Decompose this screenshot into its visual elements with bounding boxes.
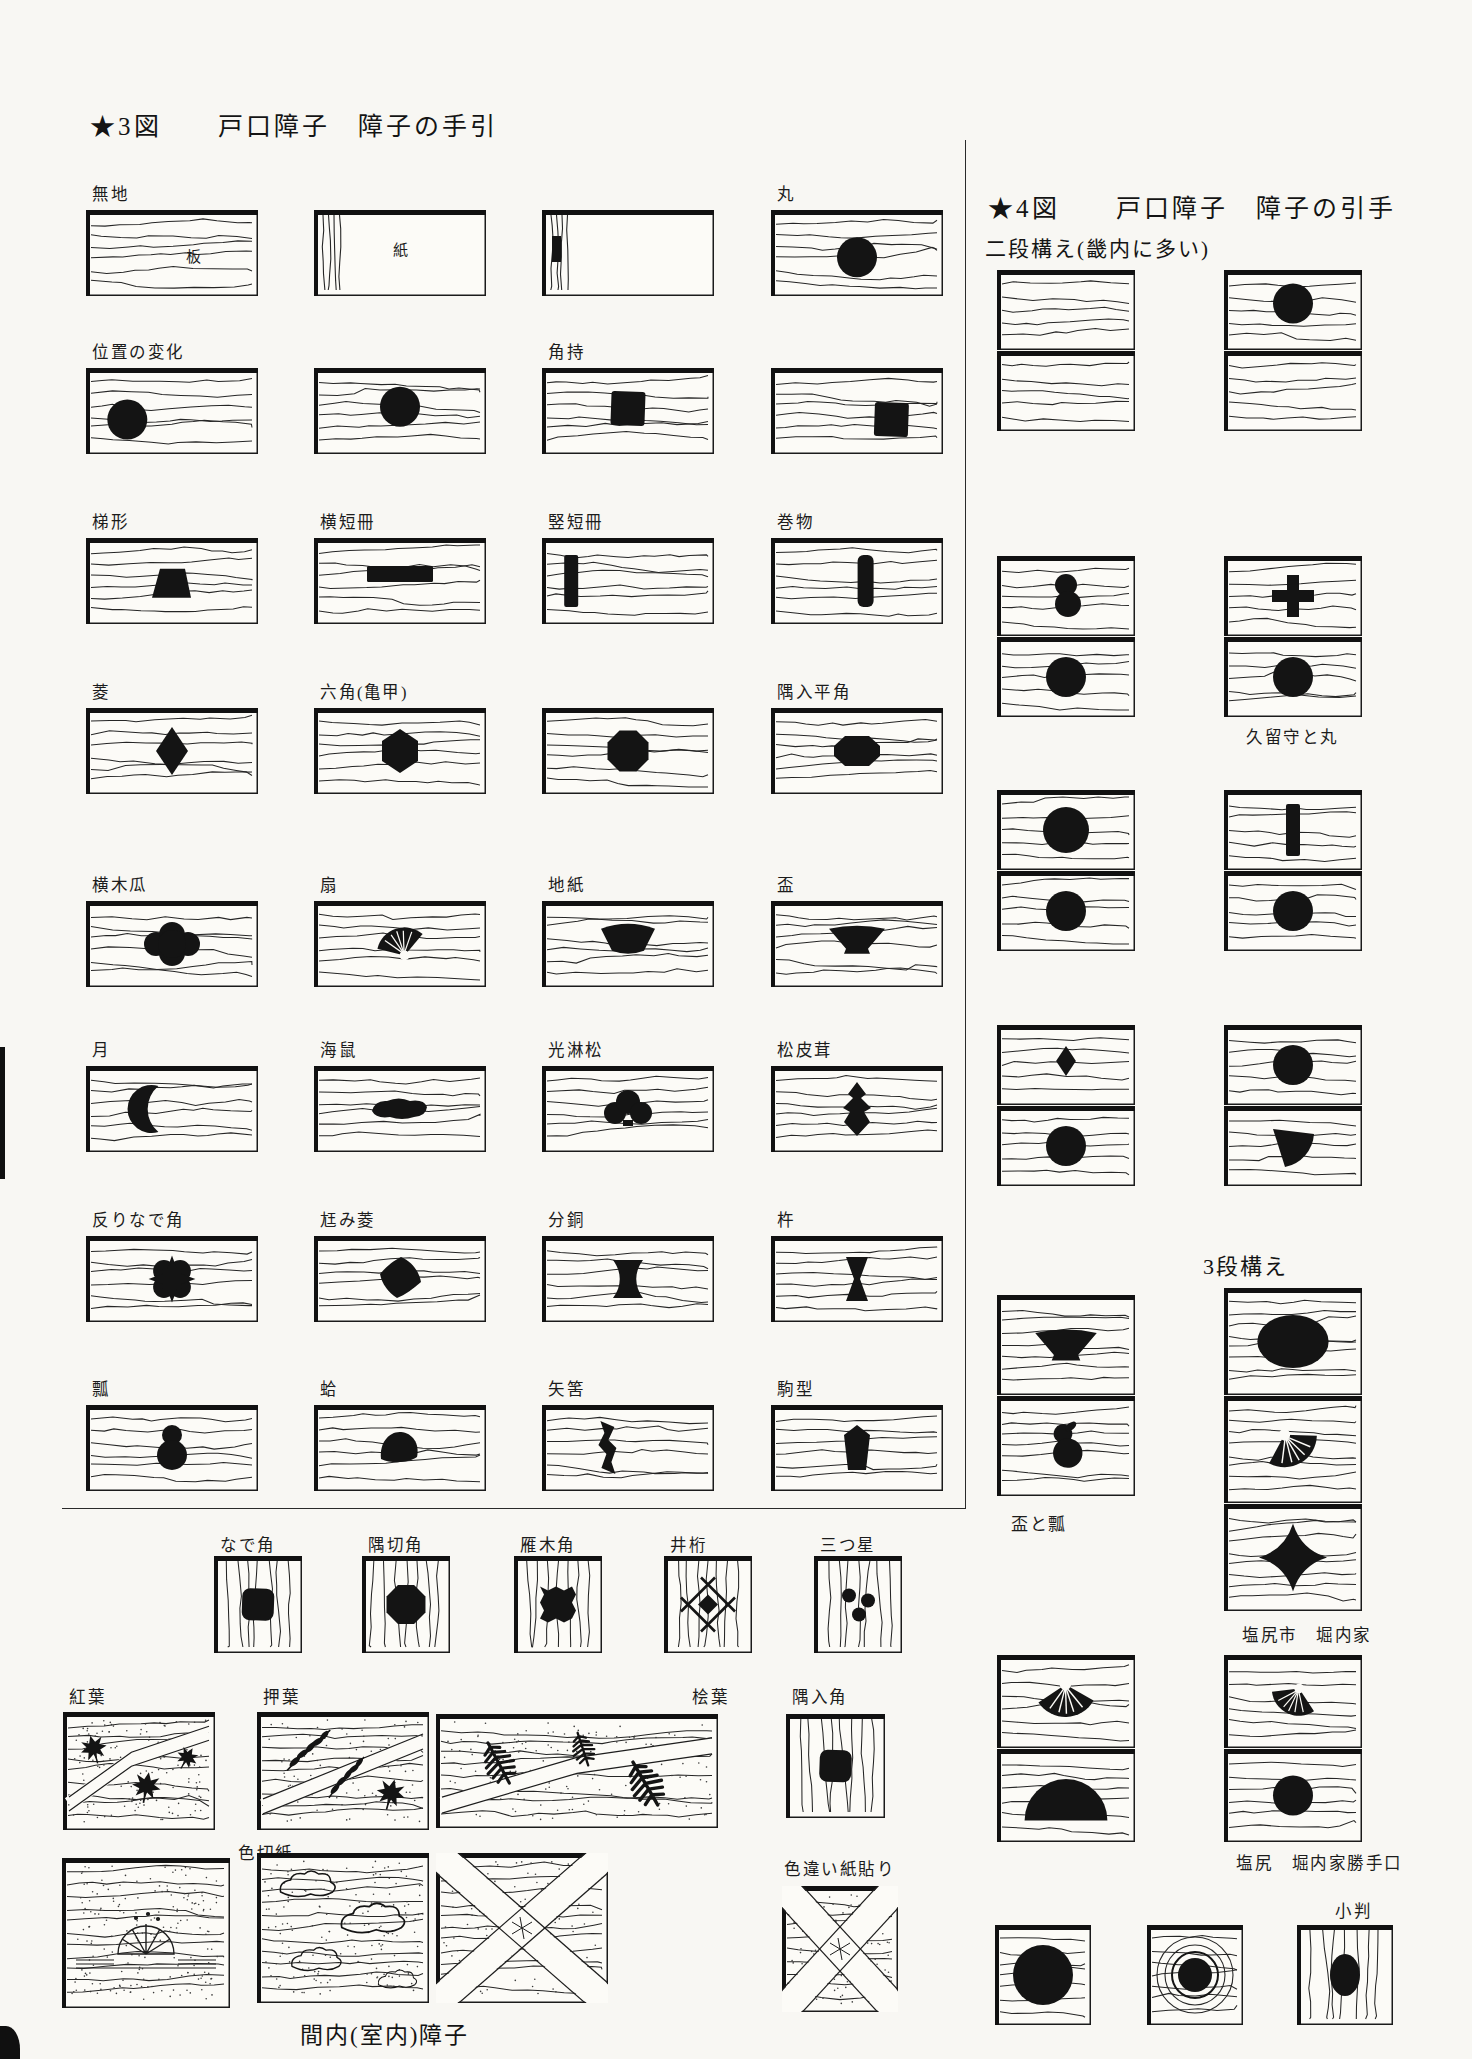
door-panel xyxy=(542,210,714,296)
door-panel-art xyxy=(1224,1655,1362,1748)
panel-label: 光淋松 xyxy=(548,1037,604,1061)
door-panel xyxy=(1224,351,1362,431)
door-panel xyxy=(997,1749,1135,1842)
door-panel xyxy=(1224,871,1362,951)
door-panel-art xyxy=(1224,871,1362,951)
panel-label: 色違い紙貼り xyxy=(784,1856,895,1880)
jagged-pull-icon xyxy=(540,1587,576,1623)
door-panel-art xyxy=(1224,270,1362,350)
panel-label: 隅入平角 xyxy=(777,679,851,703)
door-panel-art xyxy=(1147,1925,1243,2025)
door-panel-art xyxy=(1224,556,1362,636)
door-panel-art xyxy=(997,1655,1135,1748)
door-panel xyxy=(257,1853,429,2003)
ovalv-pull-icon xyxy=(1330,1954,1360,1996)
door-panel-art xyxy=(542,368,714,454)
panel-label: 隅入角 xyxy=(792,1684,848,1708)
octagon-pull-icon xyxy=(608,731,649,772)
vbar-pull-icon xyxy=(564,555,578,607)
hbar-pull-icon xyxy=(367,566,433,582)
door-panel-art xyxy=(86,1236,258,1322)
panel-label: なで角 xyxy=(220,1532,276,1556)
door-panel-art xyxy=(771,1236,943,1322)
panel-label: 瓢 xyxy=(92,1376,111,1400)
panel-label: 梯形 xyxy=(92,509,129,533)
door-panel-art xyxy=(86,368,258,454)
panel-label: 押葉 xyxy=(263,1684,300,1708)
door-panel xyxy=(314,708,486,794)
door-panel xyxy=(257,1712,429,1830)
panel-label: 丸 xyxy=(777,181,796,205)
door-panel xyxy=(782,1886,898,2012)
door-panel xyxy=(997,790,1135,870)
door-panel-art xyxy=(1224,1288,1362,1395)
door-panel xyxy=(771,210,943,296)
door-panel xyxy=(314,538,486,624)
panel-label: 駒型 xyxy=(777,1376,814,1400)
bottom-caption: 間内(室内)障子 xyxy=(300,2016,469,2050)
door-panel-art xyxy=(314,1066,486,1152)
door-panel xyxy=(1224,1106,1362,1186)
door-panel-art xyxy=(542,1405,714,1491)
circle-pull-icon xyxy=(1273,657,1313,697)
door-panel-art xyxy=(514,1556,602,1653)
door-panel xyxy=(664,1556,752,1653)
panel-label: 紅葉 xyxy=(69,1684,106,1708)
door-panel-art xyxy=(1224,1025,1362,1105)
door-panel xyxy=(314,368,486,454)
door-panel-art xyxy=(1224,1749,1362,1842)
door-panel-art xyxy=(1224,637,1362,717)
door-panel xyxy=(62,1858,230,2008)
door-panel xyxy=(997,351,1135,431)
scan-artifact xyxy=(0,1047,5,1179)
door-panel xyxy=(997,556,1135,636)
notched-square-pull-icon xyxy=(834,736,880,766)
panel-inner-note: 紙 xyxy=(393,242,408,258)
group-caption: 塩尻 堀内家勝手口 xyxy=(1236,1850,1403,1874)
square-pull-icon xyxy=(610,391,645,426)
door-panel-art xyxy=(786,1714,885,1818)
panel-label: 松皮茸 xyxy=(777,1037,833,1061)
panel-label: 扇 xyxy=(320,872,339,896)
door-panel-art xyxy=(997,790,1135,870)
panel-label: 横木瓜 xyxy=(92,872,148,896)
door-panel-art xyxy=(1224,790,1362,870)
panel-label: 月 xyxy=(92,1037,111,1061)
door-panel: 板 xyxy=(86,210,258,296)
door-panel-art xyxy=(771,368,943,454)
door-panel xyxy=(542,1405,714,1491)
panel-label: 位置の変化 xyxy=(92,339,185,363)
oval-pull-icon xyxy=(1257,1315,1328,1368)
door-panel-art xyxy=(86,1405,258,1491)
door-panel xyxy=(771,368,943,454)
door-panel-art xyxy=(997,351,1135,431)
door-panel xyxy=(1147,1925,1243,2025)
group-caption: 久留守と丸 xyxy=(1246,724,1339,748)
door-panel-art xyxy=(771,1066,943,1152)
door-panel xyxy=(542,901,714,987)
door-panel xyxy=(1224,556,1362,636)
door-panel xyxy=(997,1025,1135,1105)
door-panel xyxy=(1224,1749,1362,1842)
panel-label: 隅切角 xyxy=(368,1532,424,1556)
door-panel-art xyxy=(771,210,943,296)
panel-label: 角持 xyxy=(548,339,585,363)
door-panel-art xyxy=(1224,1106,1362,1186)
door-panel xyxy=(86,708,258,794)
square-pull-icon xyxy=(874,402,909,437)
circle-pull-icon xyxy=(380,387,420,427)
group-caption: 盃と瓢 xyxy=(1011,1510,1067,1535)
door-panel-art xyxy=(542,538,714,624)
door-panel-art xyxy=(997,871,1135,951)
panel-label: 尪み菱 xyxy=(320,1207,376,1231)
door-panel-art xyxy=(997,1295,1135,1395)
group-caption: 塩尻市 堀内家 xyxy=(1242,1622,1372,1646)
door-panel-art xyxy=(214,1556,302,1653)
circle-pull-icon xyxy=(1273,1776,1313,1816)
door-panel-art xyxy=(771,1405,943,1491)
circle-pull-icon xyxy=(1046,891,1086,931)
door-panel xyxy=(997,1396,1135,1496)
door-panel xyxy=(362,1556,450,1653)
door-panel xyxy=(1224,1025,1362,1105)
door-panel-art xyxy=(436,1853,608,2003)
